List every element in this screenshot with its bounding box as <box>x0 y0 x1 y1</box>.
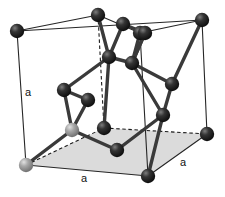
atom-int-low-left <box>65 123 79 137</box>
atom-int-top-a <box>116 17 130 31</box>
lattice-label-a-right: a <box>180 156 187 168</box>
atom-top-front-left <box>91 8 105 22</box>
atom-int-left-b <box>81 93 95 107</box>
atom-bottom-front-right <box>141 169 155 183</box>
atom-top-back-left <box>10 24 24 38</box>
atom-int-right-b <box>156 108 170 122</box>
lattice-label-a-left: a <box>25 86 32 98</box>
atom-int-right-a <box>165 77 179 91</box>
atom-bottom-back-left <box>19 158 33 172</box>
atom-int-mid-b <box>125 56 139 70</box>
lattice-label-a-bottom: a <box>81 172 88 184</box>
atom-top-back-right <box>195 13 209 27</box>
crystal-structure-figure: aaa <box>0 0 225 197</box>
atom-bottom-back-right <box>200 127 214 141</box>
atom-int-left-a <box>57 83 71 97</box>
atom-int-top-b <box>138 26 152 40</box>
atom-int-low-mid <box>110 143 124 157</box>
atom-int-mid-a <box>102 50 116 64</box>
atom-bottom-front-left <box>97 121 111 135</box>
lattice-diagram: aaa <box>0 0 225 197</box>
